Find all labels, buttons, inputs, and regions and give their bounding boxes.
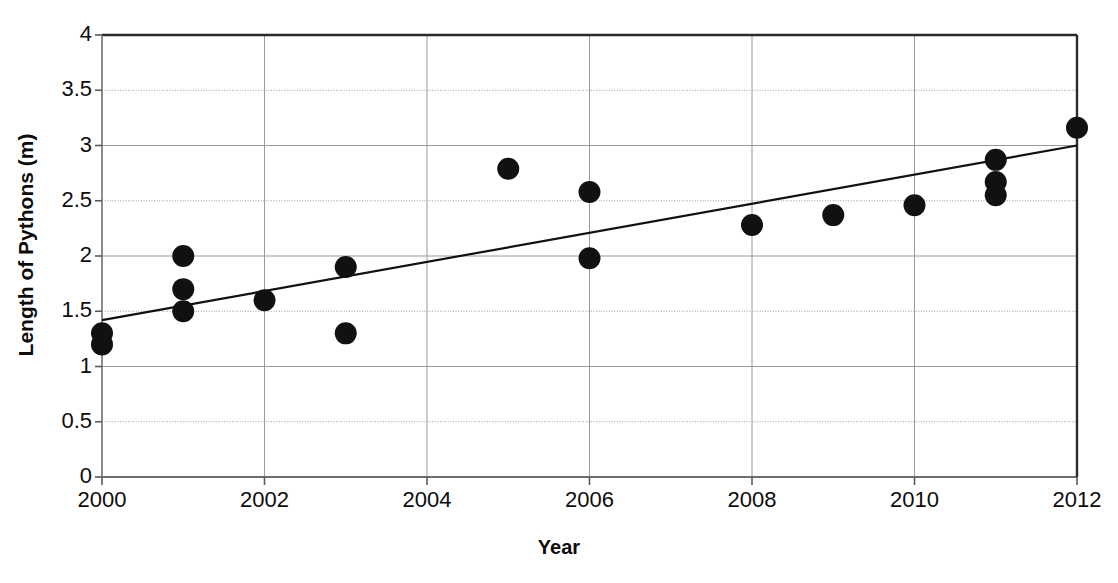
x-tick-label: 2006 xyxy=(530,489,650,511)
y-tick-label: 2.5 xyxy=(32,189,92,211)
x-tick-label: 2002 xyxy=(205,489,325,511)
data-point xyxy=(822,204,844,226)
data-point xyxy=(335,256,357,278)
x-axis-title: Year xyxy=(0,536,1118,559)
scatter-chart: Length of Pythons (m) Year 00.511.522.53… xyxy=(0,0,1118,583)
data-point xyxy=(579,247,601,269)
x-tick-label: 2012 xyxy=(1017,489,1118,511)
y-tick-label: 1 xyxy=(32,355,92,377)
data-point xyxy=(985,184,1007,206)
data-point xyxy=(172,300,194,322)
y-tick-label: 3 xyxy=(32,134,92,156)
y-tick-label: 1.5 xyxy=(32,299,92,321)
data-point xyxy=(172,278,194,300)
x-tick-label: 2008 xyxy=(692,489,812,511)
data-point xyxy=(741,214,763,236)
plot-svg xyxy=(102,35,1077,477)
x-tick-label: 2000 xyxy=(42,489,162,511)
y-tick-label: 3.5 xyxy=(32,78,92,100)
data-point xyxy=(904,194,926,216)
plot-area xyxy=(102,35,1077,477)
data-point xyxy=(497,158,519,180)
x-tick-label: 2004 xyxy=(367,489,487,511)
data-point xyxy=(1066,117,1088,139)
y-tick-label: 4 xyxy=(32,23,92,45)
data-point xyxy=(172,245,194,267)
y-tick-label: 0 xyxy=(32,465,92,487)
data-point xyxy=(985,149,1007,171)
y-tick-label: 0.5 xyxy=(32,410,92,432)
data-point xyxy=(254,289,276,311)
data-point xyxy=(335,322,357,344)
data-point xyxy=(91,333,113,355)
data-point xyxy=(579,181,601,203)
y-tick-label: 2 xyxy=(32,244,92,266)
x-tick-label: 2010 xyxy=(855,489,975,511)
